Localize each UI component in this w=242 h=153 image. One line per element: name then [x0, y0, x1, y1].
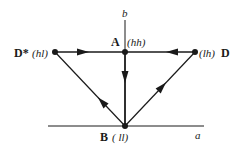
arrowhead-d-to-a [166, 49, 178, 56]
edge-b-to-dstar [55, 52, 125, 126]
node-a-label: A [111, 35, 120, 49]
node-b-label: B [100, 130, 108, 144]
node-dstar [52, 49, 58, 55]
node-d-label: D [221, 46, 230, 60]
axis-label-a: a [195, 129, 201, 141]
node-d [192, 49, 198, 55]
node-dstar-label: D* [14, 46, 29, 60]
axis-label-b: b [122, 7, 128, 19]
node-a-state: (hh) [127, 36, 146, 49]
node-b-state: ( ll) [112, 131, 129, 144]
state-diagram: b a A (hh) D* (hl) (lh) D B ( ll) [0, 0, 242, 153]
node-b [122, 123, 128, 129]
node-d-state: (lh) [199, 47, 215, 60]
node-a [122, 49, 128, 55]
arrowhead-dstar-to-a [77, 49, 89, 56]
node-dstar-state: (hl) [32, 47, 48, 60]
arrowhead-a-to-b [122, 71, 129, 83]
